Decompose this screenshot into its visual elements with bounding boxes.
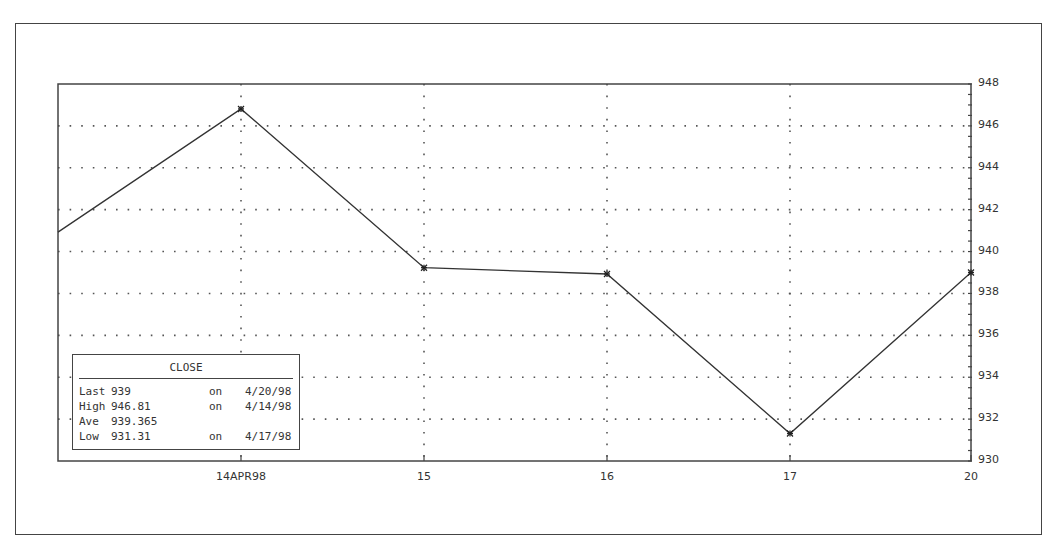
- asterisk-marker-icon: [421, 265, 427, 271]
- y-tick-label: 944: [978, 160, 999, 173]
- legend-date: 4/17/98: [245, 430, 291, 444]
- legend-on: on: [209, 430, 222, 444]
- x-tick-label: 15: [417, 470, 431, 483]
- legend-label: Low: [79, 430, 99, 444]
- price-line-chart: [0, 0, 1058, 545]
- legend-label: Last: [79, 385, 106, 399]
- legend-on: on: [209, 400, 222, 414]
- legend-label: High: [79, 400, 106, 414]
- x-tick-label: 20: [964, 470, 978, 483]
- legend-value: 946.81: [111, 400, 151, 414]
- legend-divider: [79, 378, 293, 379]
- data-point-markers: [238, 106, 974, 437]
- legend-date: 4/14/98: [245, 400, 291, 414]
- legend-value: 939.365: [111, 415, 157, 429]
- asterisk-marker-icon: [968, 270, 974, 276]
- legend-row-high: High 946.81 on 4/14/98: [79, 400, 106, 414]
- legend-title: CLOSE: [73, 361, 299, 374]
- asterisk-marker-icon: [238, 106, 244, 112]
- legend-label: Ave: [79, 415, 99, 429]
- legend-value: 931.31: [111, 430, 151, 444]
- y-tick-label: 942: [978, 202, 999, 215]
- y-tick-label: 932: [978, 411, 999, 424]
- y-tick-label: 940: [978, 244, 999, 257]
- legend-row-last: Last 939 on 4/20/98: [79, 385, 106, 399]
- x-axis-ticks: [241, 455, 971, 461]
- y-tick-label: 936: [978, 327, 999, 340]
- legend-box: CLOSE Last 939 on 4/20/98 High 946.81 on…: [72, 354, 300, 450]
- x-tick-label: 17: [783, 470, 797, 483]
- legend-row-ave: Ave 939.365: [79, 415, 106, 429]
- y-tick-label: 930: [978, 453, 999, 466]
- x-tick-label: 14APR98: [216, 470, 266, 483]
- asterisk-marker-icon: [787, 431, 793, 437]
- y-tick-label: 938: [978, 285, 999, 298]
- y-tick-label: 934: [978, 369, 999, 382]
- y-tick-label: 948: [978, 76, 999, 89]
- asterisk-marker-icon: [604, 271, 610, 277]
- legend-on: on: [209, 385, 222, 399]
- y-tick-label: 946: [978, 118, 999, 131]
- x-tick-label: 16: [600, 470, 614, 483]
- legend-date: 4/20/98: [245, 385, 291, 399]
- legend-value: 939: [111, 385, 131, 399]
- legend-row-low: Low 931.31 on 4/17/98: [79, 430, 106, 444]
